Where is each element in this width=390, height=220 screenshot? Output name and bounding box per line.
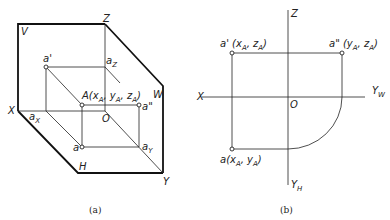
label-a-double-prime: a" <box>142 101 153 112</box>
label-O: O <box>290 99 298 110</box>
label-X: X <box>7 105 16 116</box>
label-O: O <box>102 113 110 124</box>
label-a-double-prime-coords: a" (yA, zA) <box>329 38 378 52</box>
point-A <box>80 103 84 107</box>
label-A-coords: A(xA, yA, zA) <box>81 90 141 104</box>
point-a-prime <box>230 51 234 55</box>
point-a-prime <box>44 65 48 69</box>
point-a-double-prime <box>137 103 141 107</box>
label-Y: Y <box>163 176 170 187</box>
label-X: X <box>196 91 205 102</box>
diagram-a: V Z X H W Y O a' a" a aZ aX aY A(xA, yA,… <box>7 13 170 215</box>
label-a-prime-coords: a' (xA, zA) <box>220 38 267 52</box>
label-YH: YH <box>291 179 303 193</box>
point-a-double-prime <box>340 51 344 55</box>
label-a-coords: a(xA, yA) <box>220 154 262 168</box>
label-YW: YW <box>372 85 386 99</box>
diagram-b: Z X O YW YH a' (xA, zA) a" (yA, zA) a(xA… <box>196 8 386 215</box>
label-a: a <box>73 142 79 153</box>
projection-diagrams: V Z X H W Y O a' a" a aZ aX aY A(xA, yA,… <box>0 0 390 220</box>
az-diagonal <box>105 67 120 83</box>
label-W: W <box>153 89 164 100</box>
a-prime-to-A <box>46 67 82 105</box>
label-Z: Z <box>102 13 111 24</box>
label-Z: Z <box>290 8 299 19</box>
label-a-prime: a' <box>43 53 52 64</box>
label-V: V <box>21 26 29 37</box>
point-a <box>230 147 234 151</box>
label-H: H <box>79 161 87 172</box>
label-aZ: aZ <box>106 55 117 69</box>
y-axis <box>105 111 163 173</box>
caption-b: (b) <box>280 205 293 215</box>
caption-a: (a) <box>89 205 101 215</box>
point-a <box>80 145 84 149</box>
